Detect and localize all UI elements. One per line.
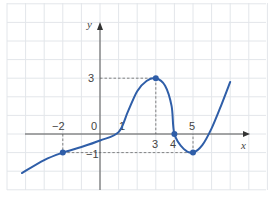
x-tick-5: 5 bbox=[189, 120, 195, 132]
x-tick-0: 0 bbox=[91, 120, 97, 132]
grid bbox=[7, 3, 267, 190]
y-axis-arrow-icon bbox=[97, 22, 103, 30]
marked-point bbox=[153, 75, 159, 81]
y-tick-3: 3 bbox=[88, 72, 94, 84]
marked-point bbox=[171, 131, 177, 137]
y-tick-minus-1: −1 bbox=[86, 148, 99, 160]
marked-point bbox=[190, 150, 196, 156]
marked-point bbox=[60, 150, 66, 156]
x-tick-4: 4 bbox=[170, 138, 176, 150]
x-axis-label: x bbox=[240, 139, 246, 151]
x-tick-minus-2: −2 bbox=[52, 120, 65, 132]
x-tick-3: 3 bbox=[152, 138, 158, 150]
tick-labels: −2 0 1 3 4 5 3 −1 bbox=[52, 72, 195, 160]
function-graph: x y −2 0 1 3 4 5 3 −1 bbox=[0, 0, 274, 202]
y-axis-label: y bbox=[86, 18, 92, 30]
